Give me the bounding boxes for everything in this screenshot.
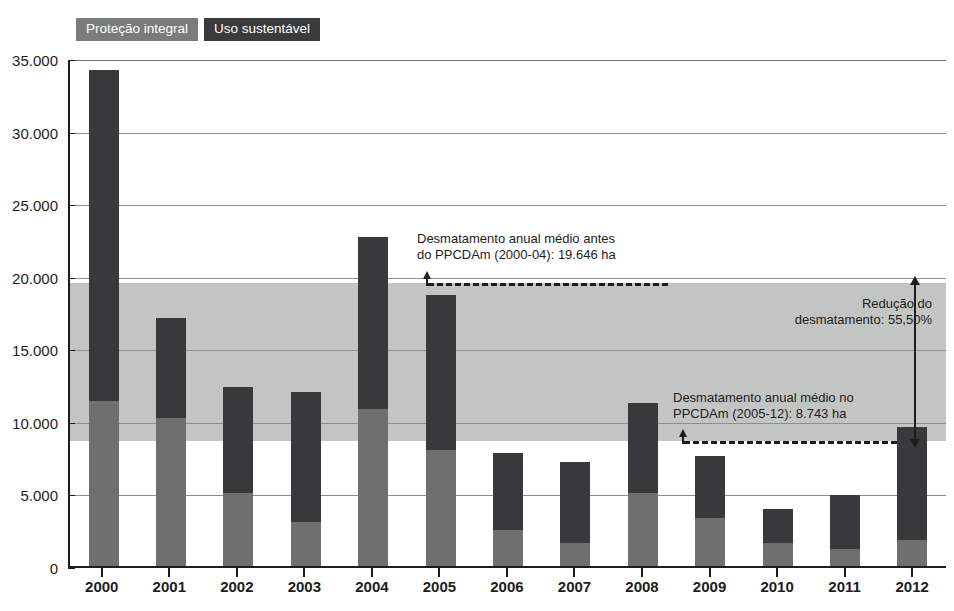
- bar-2009[interactable]: [695, 456, 725, 566]
- bar-slot-2000: [70, 60, 137, 566]
- x-axis-tick-slot: [338, 568, 406, 578]
- x-axis-tick: [911, 568, 913, 577]
- bar-2001[interactable]: [156, 318, 186, 566]
- y-axis-label: 5.000: [20, 487, 58, 504]
- bar-segment-protecao-integral-2007[interactable]: [560, 543, 590, 566]
- bar-2000[interactable]: [89, 70, 119, 566]
- bar-2006[interactable]: [493, 453, 523, 566]
- annotation-reduction: Redução do desmatamento: 55,50%: [795, 296, 932, 328]
- bar-2005[interactable]: [426, 295, 456, 566]
- y-axis: 05.00010.00015.00020.00025.00030.00035.0…: [0, 60, 68, 568]
- bar-segment-protecao-integral-2010[interactable]: [763, 543, 793, 566]
- x-axis-label-2006: 2006: [473, 578, 541, 595]
- bar-2008[interactable]: [628, 403, 658, 566]
- bar-segment-protecao-integral-2002[interactable]: [223, 493, 253, 566]
- bar-segment-protecao-integral-2011[interactable]: [830, 549, 860, 566]
- bar-segment-uso-sustentavel-2008[interactable]: [628, 403, 658, 493]
- bar-slot-2001: [137, 60, 204, 566]
- bar-slot-2004: [340, 60, 407, 566]
- y-axis-tick: [68, 495, 75, 496]
- x-axis-label-2012: 2012: [878, 578, 946, 595]
- x-axis-tick: [776, 568, 778, 577]
- annotation-reduction-line2: desmatamento: 55,50%: [795, 312, 932, 328]
- legend-uso-sustentavel-label: Uso sustentável: [214, 21, 310, 36]
- x-axis-tick-slot: [271, 568, 339, 578]
- bar-segment-protecao-integral-2001[interactable]: [156, 418, 186, 566]
- annotation-during-ppcdam: Desmatamento anual médio no PPCDAm (2005…: [673, 390, 854, 422]
- y-axis-tick: [68, 205, 75, 206]
- x-axis-label-2000: 2000: [68, 578, 136, 595]
- x-axis-tick: [101, 568, 103, 577]
- bar-segment-protecao-integral-2009[interactable]: [695, 518, 725, 566]
- bar-slot-2002: [205, 60, 272, 566]
- x-axis-tick-slot: [878, 568, 946, 578]
- y-axis-tick: [68, 60, 75, 61]
- bar-segment-uso-sustentavel-2003[interactable]: [291, 392, 321, 523]
- bar-segment-protecao-integral-2004[interactable]: [358, 409, 388, 566]
- bar-segment-uso-sustentavel-2006[interactable]: [493, 453, 523, 530]
- bar-2003[interactable]: [291, 392, 321, 566]
- bar-2004[interactable]: [358, 237, 388, 566]
- y-axis-tick: [68, 568, 75, 569]
- x-axis-tick-slot: [406, 568, 474, 578]
- bar-2011[interactable]: [830, 495, 860, 566]
- annotation-after-line2: PPCDAm (2005-12): 8.743 ha: [673, 406, 854, 422]
- y-axis-label: 15.000: [12, 342, 58, 359]
- bar-segment-protecao-integral-2000[interactable]: [89, 401, 119, 566]
- bar-2007[interactable]: [560, 462, 590, 567]
- x-axis-tick: [506, 568, 508, 577]
- y-axis-label: 35.000: [12, 52, 58, 69]
- bar-segment-uso-sustentavel-2011[interactable]: [830, 495, 860, 549]
- x-axis-tick: [303, 568, 305, 577]
- bar-segment-uso-sustentavel-2000[interactable]: [89, 70, 119, 401]
- x-axis-label-2008: 2008: [608, 578, 676, 595]
- bar-segment-uso-sustentavel-2009[interactable]: [695, 456, 725, 518]
- x-axis-tick-slot: [203, 568, 271, 578]
- x-axis-tick-slot: [473, 568, 541, 578]
- x-axis-tick-slot: [136, 568, 204, 578]
- legend-protecao-integral: Proteção integral: [76, 18, 198, 41]
- annotation-before-line1: Desmatamento anual médio antes: [417, 231, 616, 247]
- reference-line-after: [684, 441, 897, 444]
- bar-segment-protecao-integral-2008[interactable]: [628, 493, 658, 566]
- annotation-after-line1: Desmatamento anual médio no: [673, 390, 854, 406]
- x-axis-tick: [236, 568, 238, 577]
- bar-segment-uso-sustentavel-2001[interactable]: [156, 318, 186, 418]
- bar-slot-2007: [542, 60, 609, 566]
- bar-slot-2003: [272, 60, 339, 566]
- x-axis-ticks: [68, 568, 946, 578]
- annotation-before-line2: do PPCDAm (2000-04): 19.646 ha: [417, 247, 616, 263]
- bar-slot-2008: [609, 60, 676, 566]
- bar-2002[interactable]: [223, 387, 253, 566]
- y-axis-label: 0: [50, 560, 58, 577]
- legend-uso-sustentavel: Uso sustentável: [204, 18, 320, 41]
- x-axis-tick-slot: [811, 568, 879, 578]
- bar-slot-2009: [677, 60, 744, 566]
- bar-segment-uso-sustentavel-2004[interactable]: [358, 237, 388, 410]
- bar-segment-protecao-integral-2012[interactable]: [897, 540, 927, 566]
- x-axis-tick: [709, 568, 711, 577]
- x-axis-tick: [844, 568, 846, 577]
- bar-segment-protecao-integral-2006[interactable]: [493, 530, 523, 566]
- y-axis-tick: [68, 278, 75, 279]
- x-axis-label-2002: 2002: [203, 578, 271, 595]
- x-axis-label-2001: 2001: [136, 578, 204, 595]
- bar-segment-uso-sustentavel-2007[interactable]: [560, 462, 590, 543]
- bar-segment-uso-sustentavel-2002[interactable]: [223, 387, 253, 493]
- bar-slot-2006: [474, 60, 541, 566]
- bar-segment-uso-sustentavel-2005[interactable]: [426, 295, 456, 450]
- reference-line-before: [428, 283, 668, 286]
- x-axis-tick: [438, 568, 440, 577]
- x-axis-label-2009: 2009: [676, 578, 744, 595]
- bar-slot-2005: [407, 60, 474, 566]
- arrow-up-before-stem: [426, 276, 428, 286]
- x-axis-tick: [168, 568, 170, 577]
- y-axis-tick: [68, 350, 75, 351]
- bar-segment-protecao-integral-2003[interactable]: [291, 522, 321, 566]
- x-axis-label-2011: 2011: [811, 578, 879, 595]
- reduction-arrow-stem: [914, 283, 916, 441]
- bar-2010[interactable]: [763, 509, 793, 566]
- bar-segment-protecao-integral-2005[interactable]: [426, 450, 456, 566]
- bar-segment-uso-sustentavel-2010[interactable]: [763, 509, 793, 542]
- chart-legend: Proteção integral Uso sustentável: [76, 18, 320, 41]
